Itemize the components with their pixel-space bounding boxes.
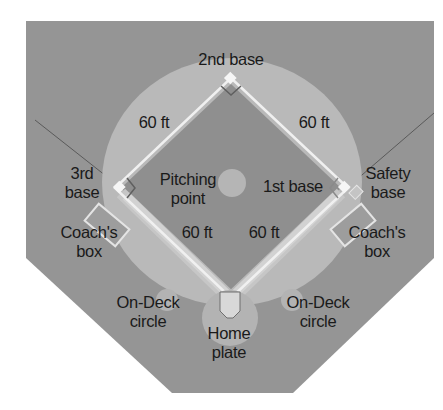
label-third-base-line1: 3rd: [65, 164, 100, 183]
label-coach-box-left: Coach's box: [61, 223, 118, 261]
label-coach-box-left-line2: box: [61, 242, 118, 261]
label-pitching-point: Pitching point: [160, 170, 216, 208]
label-third-base-line2: base: [65, 183, 100, 202]
home-plate: [220, 292, 240, 318]
label-coach-box-right: Coach's box: [349, 223, 406, 261]
label-on-deck-left: On-Deck circle: [117, 293, 180, 331]
pitching-circle: [218, 169, 246, 197]
label-safety-base-line2: base: [366, 183, 411, 202]
label-on-deck-right: On-Deck circle: [287, 293, 350, 331]
label-home-plate-line1: Home: [208, 324, 251, 343]
label-on-deck-left-line2: circle: [117, 312, 180, 331]
label-home-plate-line2: plate: [208, 343, 251, 362]
baseball-field-diagram: 2nd base 60 ft 60 ft 3rd base Pitching p…: [0, 0, 443, 410]
label-on-deck-right-line2: circle: [287, 312, 350, 331]
label-pitching-point-line1: Pitching: [160, 170, 216, 189]
label-distance-2nd-3rd: 60 ft: [139, 113, 170, 132]
label-first-base: 1st base: [263, 177, 323, 196]
label-coach-box-right-line1: Coach's: [349, 223, 406, 242]
label-coach-box-right-line2: box: [349, 242, 406, 261]
label-safety-base: Safety base: [366, 164, 411, 202]
label-safety-base-line1: Safety: [366, 164, 411, 183]
label-second-base: 2nd base: [198, 50, 264, 69]
label-coach-box-left-line1: Coach's: [61, 223, 118, 242]
label-distance-1st-2nd: 60 ft: [299, 113, 330, 132]
label-home-plate: Home plate: [208, 324, 251, 362]
label-on-deck-right-line1: On-Deck: [287, 293, 350, 312]
label-distance-3rd-home: 60 ft: [182, 223, 213, 242]
label-on-deck-left-line1: On-Deck: [117, 293, 180, 312]
label-third-base: 3rd base: [65, 164, 100, 202]
label-pitching-point-line2: point: [160, 189, 216, 208]
label-distance-home-1st: 60 ft: [249, 223, 280, 242]
